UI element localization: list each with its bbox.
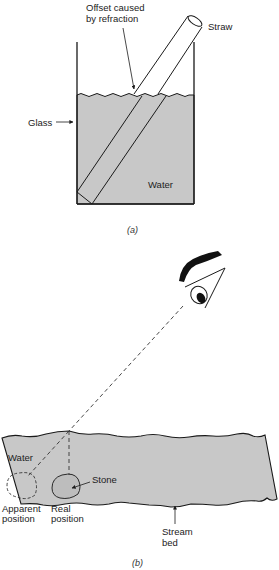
stone-label: Stone bbox=[92, 474, 117, 485]
stream-bed-line1: Stream bbox=[162, 526, 193, 537]
straw-label: Straw bbox=[208, 21, 232, 32]
water-label-b: Water bbox=[8, 452, 33, 463]
eye-icon bbox=[179, 251, 225, 308]
stream-water bbox=[2, 431, 277, 507]
offset-arrow bbox=[123, 28, 134, 89]
offset-label-line1: Offset caused bbox=[86, 2, 144, 13]
stream-bed-line2: bed bbox=[162, 537, 178, 548]
sight-line-upper bbox=[69, 306, 183, 431]
figure-a: Offset caused by refraction Straw Glass … bbox=[28, 2, 232, 235]
figure-b: Water Stone Apparent position Real posit… bbox=[2, 251, 277, 568]
eyebrow bbox=[179, 251, 222, 282]
straw-above-water bbox=[134, 14, 204, 94]
refraction-diagram: Offset caused by refraction Straw Glass … bbox=[0, 0, 279, 570]
caption-b: (b) bbox=[132, 558, 143, 568]
real-stone bbox=[52, 474, 80, 498]
caption-a: (a) bbox=[127, 225, 138, 235]
glass-label: Glass bbox=[28, 117, 53, 128]
water-label-a: Water bbox=[148, 179, 173, 190]
apparent-position-line2: position bbox=[2, 513, 35, 524]
real-position-line2: position bbox=[51, 513, 84, 524]
offset-label-line2: by refraction bbox=[86, 13, 138, 24]
glass-water bbox=[77, 94, 194, 205]
